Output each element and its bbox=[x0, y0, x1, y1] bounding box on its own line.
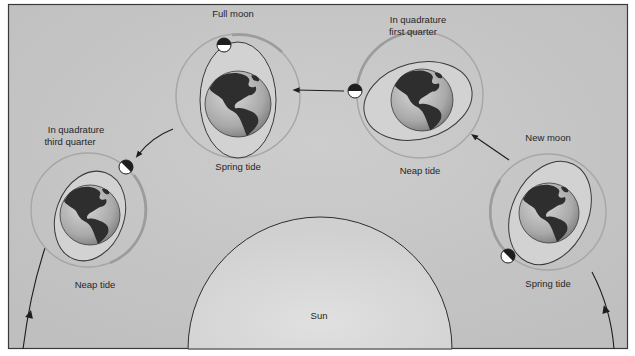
label-new-moon-tide: Spring tide bbox=[525, 278, 570, 290]
label-full-moon-tide: Spring tide bbox=[215, 161, 260, 173]
earth-icon bbox=[391, 69, 453, 131]
label-sun: Sun bbox=[311, 310, 328, 322]
label-new-moon: New moon bbox=[525, 132, 570, 144]
label-third-quarter: In quadrature bbox=[48, 124, 105, 136]
label-full-moon: Full moon bbox=[212, 8, 254, 20]
label-first-quarter-tide: Neap tide bbox=[400, 165, 441, 177]
label-first-quarter-line2: first quarter bbox=[389, 26, 437, 38]
earth-icon bbox=[60, 185, 120, 245]
moon-full-icon bbox=[217, 38, 231, 52]
label-third-quarter-tide: Neap tide bbox=[75, 279, 116, 291]
label-third-quarter-line2: third quarter bbox=[44, 136, 95, 148]
tides-diagram bbox=[0, 0, 635, 356]
earth-icon bbox=[205, 71, 271, 137]
earth-icon bbox=[519, 183, 579, 243]
label-first-quarter: In quadrature bbox=[390, 14, 447, 26]
moon-third-quarter-icon bbox=[119, 160, 133, 174]
moon-new-icon bbox=[501, 249, 515, 263]
moon-first-quarter-icon bbox=[348, 84, 362, 98]
